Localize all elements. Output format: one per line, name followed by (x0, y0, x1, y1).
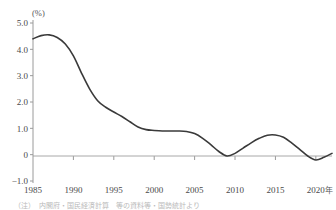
chart-container: (%) 5.04.03.02.01.00−1.0 198519901995200… (0, 0, 336, 210)
x-axis-tick-label: 2005 (186, 185, 205, 195)
x-axis-tick-label: 2010 (226, 185, 245, 195)
x-axis-tick-label: 1995 (105, 185, 124, 195)
x-axis-tick-label: 2000 (145, 185, 164, 195)
line-chart: (%) 5.04.03.02.01.00−1.0 198519901995200… (0, 0, 336, 210)
y-axis-tick-label: 0 (24, 150, 29, 160)
x-axis-tick-label: 2015 (266, 185, 285, 195)
x-axis-unit-text: 年 (325, 185, 333, 195)
chart-background (0, 0, 336, 210)
y-axis-tick-label: 4.0 (17, 45, 29, 55)
x-axis-tick-label: 1990 (64, 185, 83, 195)
y-axis-unit-text: (%) (32, 8, 45, 18)
y-axis-tick-label: 1.0 (17, 124, 29, 134)
figure-caption: （注） 内閣府・国民経済計算 等の資料等・国勢統計より (14, 201, 200, 210)
x-axis-tick-label: 2020 (307, 185, 326, 195)
y-axis-unit-label: (%) (32, 8, 45, 18)
x-axis-tick-label: 1985 (24, 185, 43, 195)
y-axis-tick-label: 5.0 (17, 18, 29, 28)
y-axis-tick-label: 3.0 (17, 71, 29, 81)
y-axis-tick-label: 2.0 (17, 97, 29, 107)
